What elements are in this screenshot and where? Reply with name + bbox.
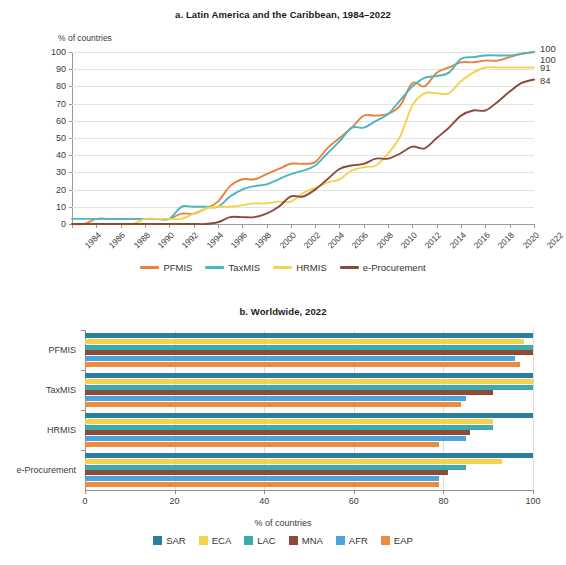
bar-hrmis-eca: [85, 419, 493, 424]
legend-item-pfmis[interactable]: PFMIS: [140, 262, 192, 273]
bar-taxmis-eca: [85, 379, 533, 384]
y-tick-label: 10: [56, 202, 66, 212]
line-swatch-icon: [205, 266, 224, 269]
bar-pfmis-lac: [85, 345, 533, 350]
x-tick-label: 40: [259, 496, 269, 506]
bar-e-procurement-sar: [85, 453, 533, 458]
x-tick-label: 0: [82, 496, 87, 506]
legend-label: ECA: [212, 535, 232, 546]
bar-e-procurement-eap: [85, 482, 439, 487]
panel-b-xlabel: % of countries: [0, 518, 566, 528]
bar-taxmis-lac: [85, 385, 533, 390]
x-tick-label: 1994: [204, 230, 224, 250]
legend-label: SAR: [166, 535, 186, 546]
legend-label: MNA: [302, 535, 323, 546]
panel-b-title: b. Worldwide, 2022: [0, 290, 566, 317]
square-swatch-icon: [336, 536, 345, 545]
y-tick-label: 70: [56, 99, 66, 109]
legend-label: e-Procurement: [363, 262, 426, 273]
group-label-taxmis: TaxMIS: [46, 385, 76, 395]
panel-a-plot-area: 0102030405060708090100 19841986198819901…: [72, 52, 534, 224]
series-line-e-procurement: [72, 80, 534, 225]
x-tick-mark: [534, 224, 535, 228]
bar-pfmis-mna: [85, 350, 533, 355]
x-tick-label: 1990: [155, 230, 175, 250]
legend-label: PFMIS: [163, 262, 192, 273]
bar-e-procurement-mna: [85, 470, 448, 475]
panel-b-x-axis: [85, 490, 533, 491]
x-tick-mark: [510, 224, 511, 228]
legend-label: EAP: [394, 535, 413, 546]
series-end-label: 84: [540, 74, 551, 85]
y-tick-label: 30: [56, 167, 66, 177]
panel-a-lines: [72, 52, 534, 224]
legend-item-afr[interactable]: AFR: [336, 535, 368, 546]
x-tick-label: 20: [170, 496, 180, 506]
legend-item-e-procurement[interactable]: e-Procurement: [340, 262, 426, 273]
bar-pfmis-sar: [85, 333, 533, 338]
x-tick-mark: [437, 224, 438, 228]
x-tick-label: 2008: [374, 230, 394, 250]
x-tick-mark: [388, 224, 389, 228]
legend-item-mna[interactable]: MNA: [289, 535, 323, 546]
x-tick-label: 2002: [301, 230, 321, 250]
x-tick-label: 1996: [228, 230, 248, 250]
x-tick-mark: [533, 490, 534, 494]
x-tick-label: 1986: [107, 230, 127, 250]
bar-taxmis-eap: [85, 402, 461, 407]
legend-item-lac[interactable]: LAC: [244, 535, 275, 546]
bar-pfmis-eap: [85, 362, 520, 367]
x-tick-label: 2004: [326, 230, 346, 250]
y-tick-label: 0: [61, 219, 66, 229]
x-tick-mark: [291, 224, 292, 228]
x-tick-mark: [242, 224, 243, 228]
x-tick-label: 2016: [472, 230, 492, 250]
legend-label: HRMIS: [296, 262, 327, 273]
legend-item-hrmis[interactable]: HRMIS: [273, 262, 327, 273]
x-tick-mark: [267, 224, 268, 228]
x-tick-mark: [354, 490, 355, 494]
x-tick-label: 60: [349, 496, 359, 506]
bar-pfmis-afr: [85, 356, 515, 361]
y-tick-label: 100: [51, 47, 66, 57]
bar-e-procurement-afr: [85, 476, 439, 481]
x-tick-mark: [461, 224, 462, 228]
x-tick-mark: [218, 224, 219, 228]
chart-panel-latin-america: a. Latin America and the Caribbean, 1984…: [0, 0, 566, 290]
y-tick-label: 40: [56, 150, 66, 160]
group-tick-mark: [81, 410, 85, 411]
x-tick-label: 2014: [447, 230, 467, 250]
x-tick-label: 1992: [180, 230, 200, 250]
bar-hrmis-mna: [85, 430, 470, 435]
x-tick-label: 1984: [83, 230, 103, 250]
group-tick-mark: [81, 370, 85, 371]
square-swatch-icon: [153, 536, 162, 545]
bar-taxmis-mna: [85, 390, 493, 395]
group-label-e-procurement: e-Procurement: [16, 465, 76, 475]
y-tick-label: 20: [56, 185, 66, 195]
legend-item-sar[interactable]: SAR: [153, 535, 186, 546]
x-tick-label: 2012: [423, 230, 443, 250]
legend-label: TaxMIS: [228, 262, 260, 273]
bar-e-procurement-lac: [85, 465, 466, 470]
group-tick-mark: [81, 330, 85, 331]
chart-panel-worldwide: b. Worldwide, 2022 PFMISTaxMISHRMISe-Pro…: [0, 290, 566, 565]
x-tick-label: 2020: [520, 230, 540, 250]
x-tick-label: 100: [525, 496, 540, 506]
bar-hrmis-eap: [85, 442, 439, 447]
series-end-label: 91: [540, 62, 551, 73]
x-tick-label: 1988: [131, 230, 151, 250]
x-tick-mark: [175, 490, 176, 494]
x-tick-label: 1998: [253, 230, 273, 250]
line-swatch-icon: [140, 266, 159, 269]
legend-item-taxmis[interactable]: TaxMIS: [205, 262, 260, 273]
series-line-hrmis: [72, 67, 534, 224]
x-tick-mark: [443, 490, 444, 494]
legend-item-eap[interactable]: EAP: [381, 535, 413, 546]
x-tick-mark: [264, 490, 265, 494]
legend-item-eca[interactable]: ECA: [199, 535, 232, 546]
square-swatch-icon: [199, 536, 208, 545]
square-swatch-icon: [289, 536, 298, 545]
legend-label: AFR: [349, 535, 368, 546]
y-tick-label: 50: [56, 133, 66, 143]
